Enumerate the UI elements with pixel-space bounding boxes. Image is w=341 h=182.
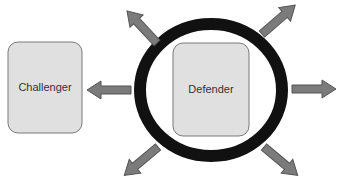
challenger-label: Challenger [18,81,72,93]
arrow-right [292,80,336,98]
defender-label: Defender [188,83,234,95]
arrow-lower-left [119,140,164,182]
arrow-to-challenger [87,81,131,99]
arrow-upper-left [120,5,163,49]
diagram-canvas: Challenger Defender [0,0,341,182]
defender-node: Defender [173,43,249,136]
arrow-upper-right [256,0,301,41]
arrow-lower-right [258,140,303,182]
challenger-node: Challenger [8,42,82,133]
